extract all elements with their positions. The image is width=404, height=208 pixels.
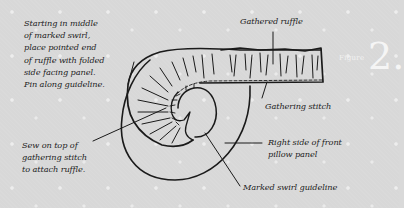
pin-marks [170,84,194,125]
ruffle-inner-edge [171,92,193,140]
ruffle-top-edge [200,48,323,83]
ruffle-gather-lines [138,53,318,143]
swirl-guideline-label: Marked swirl guideline [243,181,337,193]
figure-label: Figure [339,54,364,62]
sew-instruction-note: Sew on top of gathering stitch to attach… [22,139,87,176]
leader-swirl-guideline [205,133,240,186]
figure-number: 2. [368,36,404,76]
ruffle-outer-edge [127,48,321,146]
leader-gathering-stitch [262,82,267,98]
outer-swirl-guideline [121,60,250,180]
gathering-stitch-label: Gathering stitch [265,100,331,112]
inner-swirl-guideline [178,88,216,137]
start-instruction-note: Starting in middle of marked swirl, plac… [24,17,105,90]
gathered-ruffle-label: Gathered ruffle [240,15,303,27]
right-side-panel-label: Right side of front pillow panel [268,136,342,160]
